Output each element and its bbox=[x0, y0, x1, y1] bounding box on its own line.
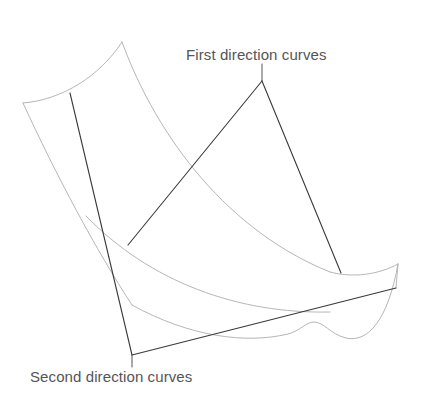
first-direction-curve-right bbox=[262, 81, 341, 273]
first-direction-curve-left bbox=[70, 93, 132, 355]
second-direction-curve-right-tip bbox=[330, 264, 398, 275]
second-direction-curve-inner bbox=[86, 216, 330, 312]
figure-root: First direction curves Second direction … bbox=[0, 0, 428, 420]
first-direction-curve-group bbox=[70, 81, 396, 355]
first-direction-curve-bottom bbox=[132, 288, 396, 355]
surface-diagram bbox=[0, 0, 428, 420]
first-direction-curve-middle-apex bbox=[128, 81, 262, 245]
second-direction-curve-left-edge bbox=[23, 103, 132, 305]
first-direction-curves-label: First direction curves bbox=[186, 46, 327, 63]
second-direction-curve-top bbox=[23, 42, 122, 103]
second-direction-curves-label: Second direction curves bbox=[30, 368, 192, 385]
second-direction-curve-group bbox=[23, 42, 398, 339]
second-direction-curve-upper-right bbox=[122, 42, 330, 272]
